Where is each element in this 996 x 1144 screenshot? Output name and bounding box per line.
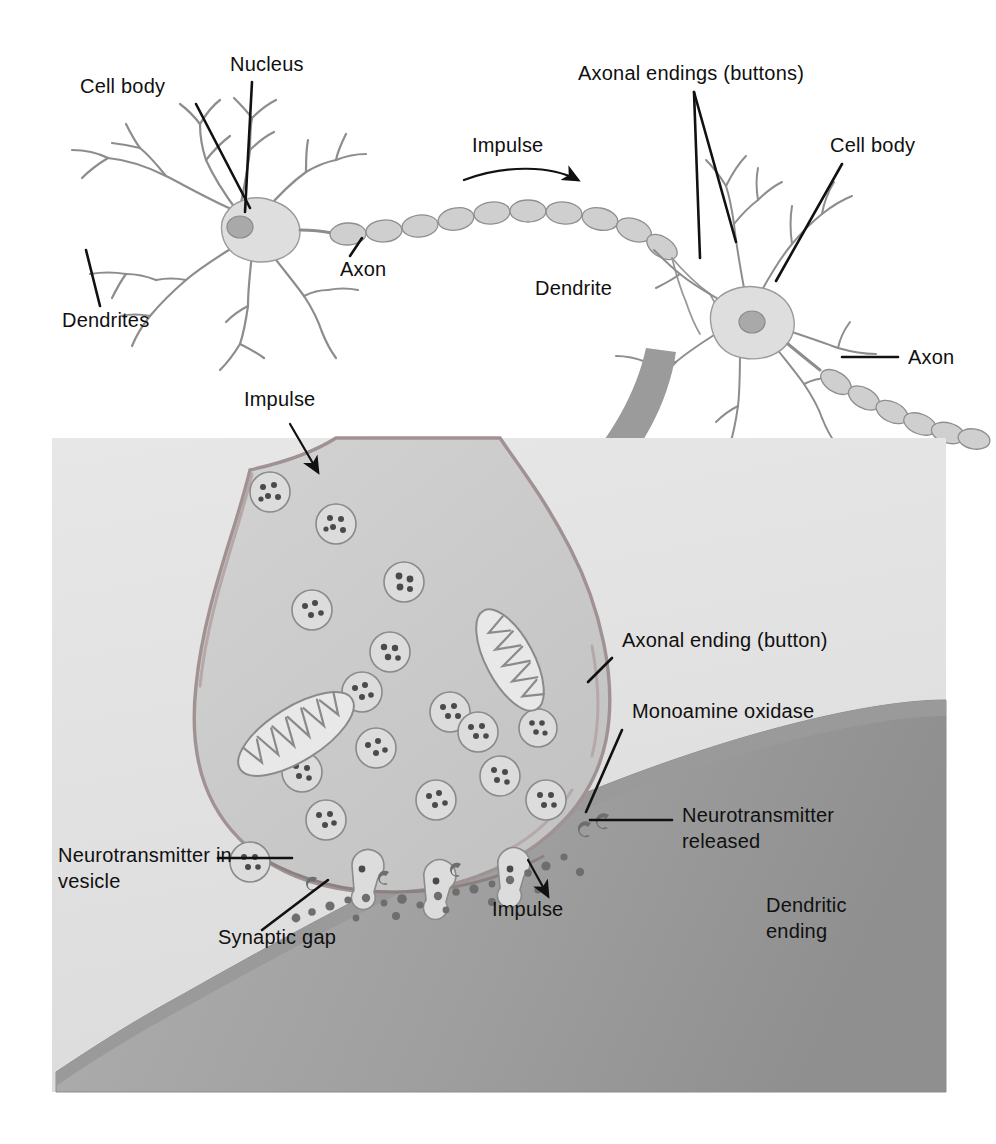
label-neurotransmitter-released-line1: Neurotransmitter <box>682 804 834 826</box>
label-impulse-terminal: Impulse <box>244 388 315 410</box>
label-neurotransmitter-released-line2: released <box>682 830 760 852</box>
diagram-canvas: Cell body Nucleus Dendrites Axon Impulse… <box>0 0 996 1144</box>
label-cell-body-right: Cell body <box>830 134 915 156</box>
label-impulse-top: Impulse <box>472 134 543 156</box>
label-synaptic-gap: Synaptic gap <box>218 926 336 948</box>
label-dendrites: Dendrites <box>62 309 149 331</box>
label-axonal-endings: Axonal endings (buttons) <box>578 62 804 84</box>
label-axonal-ending: Axonal ending (button) <box>622 629 828 651</box>
label-neurotransmitter-in-vesicle-line2: vesicle <box>58 870 121 892</box>
label-dendrite-right: Dendrite <box>535 277 612 299</box>
label-neurotransmitter-in-vesicle-line1: Neurotransmitter in <box>58 844 232 866</box>
label-axon-right: Axon <box>908 346 954 368</box>
label-dendritic-ending-line1: Dendritic <box>766 894 847 916</box>
label-monoamine-oxidase: Monoamine oxidase <box>632 700 814 722</box>
label-nucleus: Nucleus <box>230 53 304 75</box>
label-dendritic-ending-line2: ending <box>766 920 827 942</box>
label-impulse-postsynaptic: Impulse <box>492 898 563 920</box>
right-neuron-nucleus <box>739 311 765 333</box>
label-axon-left: Axon <box>340 258 386 280</box>
left-neuron-nucleus <box>227 216 253 238</box>
synapse-detail-panel <box>52 438 946 1092</box>
label-cell-body-left: Cell body <box>80 75 165 97</box>
figure-root: Cell body Nucleus Dendrites Axon Impulse… <box>0 0 996 1144</box>
